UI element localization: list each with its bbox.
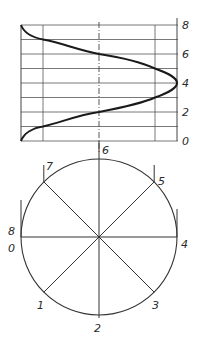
displacement-graph: 8 6 4 2 0 [21,18,189,152]
harmonic-motion-diagram: 8 6 4 2 0 6 7 5 8 0 4 1 3 2 [0,0,200,347]
circle-label-3: 3 [152,299,159,312]
y-label-4: 4 [182,77,189,90]
circle-label-4: 4 [181,238,188,251]
circle-label-5: 5 [158,175,165,188]
circle-label-8: 8 [8,225,15,238]
graph-grid [21,18,178,152]
y-label-2: 2 [182,106,189,119]
y-label-0: 0 [182,135,189,148]
circle-label-2: 2 [94,322,101,335]
circle-label-1: 1 [37,299,44,312]
divided-circle: 6 7 5 8 0 4 1 3 2 [8,141,188,335]
circle-label-7: 7 [46,160,53,173]
circle-label-0: 0 [8,242,15,255]
circle-label-6: 6 [102,144,109,157]
y-label-6: 6 [182,48,189,61]
y-label-8: 8 [182,19,189,32]
